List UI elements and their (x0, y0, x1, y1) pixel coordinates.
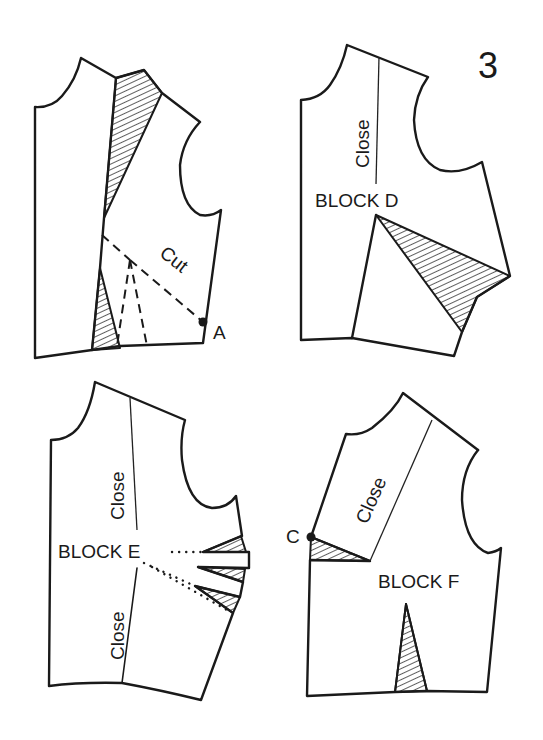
cut-line-a (102, 235, 130, 260)
upper-piece-outline (311, 393, 478, 537)
close-label-upper: Close (107, 471, 128, 520)
hatched-dart-d (376, 215, 510, 332)
point-c-marker (307, 533, 316, 542)
block-d-title: BLOCK D (315, 190, 398, 211)
point-c-label: C (286, 526, 300, 547)
seam-line (352, 215, 376, 338)
figure-number: 3 (478, 45, 498, 86)
point-a-marker (199, 318, 208, 327)
block-e-title: BLOCK E (58, 541, 140, 562)
dart-leg-left (117, 260, 130, 346)
close-label-lower: Close (107, 611, 128, 660)
pattern-diagram: 3 A Cut Close BLOCK D (0, 0, 543, 740)
hatched-dart-upper (104, 70, 162, 218)
close-label: Close (352, 119, 373, 168)
point-a-label: A (213, 322, 226, 343)
close-label: Close (351, 474, 390, 527)
block-f-title: BLOCK F (378, 571, 459, 592)
cut-label: Cut (156, 242, 193, 277)
close-line (376, 57, 379, 184)
close-line-upper (130, 398, 137, 530)
bodice-top-left: A Cut (35, 58, 226, 358)
bodice-block-f: C Close BLOCK F (286, 393, 501, 696)
bodice-block-e: Close Close BLOCK E (49, 382, 249, 700)
bodice-block-d: Close BLOCK D (301, 45, 510, 356)
